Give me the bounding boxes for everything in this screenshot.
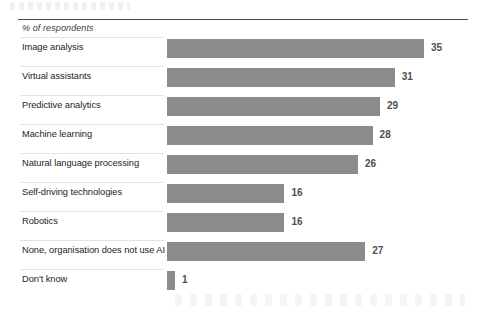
bar-value-label: 16 [291, 216, 302, 227]
bar-track: 27 [167, 242, 481, 261]
category-label: Don't know [22, 273, 67, 286]
row-separator [20, 182, 164, 183]
category-label: Self-driving technologies [22, 186, 122, 199]
bar [167, 184, 284, 203]
bar-track: 16 [167, 184, 481, 203]
bar-row: Virtual assistants31 [0, 66, 481, 95]
bar-value-label: 35 [431, 42, 442, 53]
bar-value-label: 27 [372, 245, 383, 256]
bar [167, 68, 395, 87]
category-label: None, organisation does not use AI [22, 244, 165, 257]
bar-track: 16 [167, 213, 481, 232]
bar-row: Robotics16 [0, 211, 481, 240]
bar [167, 271, 175, 290]
bar [167, 213, 284, 232]
row-separator [20, 211, 164, 212]
category-label: Robotics [22, 215, 58, 228]
bar-rows: Image analysis35Virtual assistants31Pred… [0, 37, 481, 298]
scan-artifact-bottom [175, 294, 465, 306]
bar-track: 35 [167, 39, 481, 58]
bar-row: Self-driving technologies16 [0, 182, 481, 211]
bar-row: Machine learning28 [0, 124, 481, 153]
bar-value-label: 1 [182, 274, 188, 285]
category-label: Image analysis [22, 41, 83, 54]
category-label: Machine learning [22, 128, 92, 141]
row-separator [20, 269, 164, 270]
bar-row: Image analysis35 [0, 37, 481, 66]
bar-row: Natural language processing26 [0, 153, 481, 182]
bar-value-label: 29 [387, 100, 398, 111]
row-separator [20, 240, 164, 241]
bar-track: 26 [167, 155, 481, 174]
bar-value-label: 26 [365, 158, 376, 169]
category-label: Virtual assistants [22, 70, 91, 83]
bar-track: 28 [167, 126, 481, 145]
chart-top-rule [18, 19, 468, 20]
bar-value-label: 31 [402, 71, 413, 82]
row-separator [20, 124, 164, 125]
bar-track: 31 [167, 68, 481, 87]
bar-chart: % of respondents Image analysis35Virtual… [0, 0, 481, 314]
bar [167, 39, 424, 58]
row-separator [20, 95, 164, 96]
bar-row: Predictive analytics29 [0, 95, 481, 124]
bar [167, 242, 365, 261]
axis-note: % of respondents [22, 23, 94, 33]
bar [167, 155, 358, 174]
bar [167, 97, 380, 116]
row-separator [20, 66, 164, 67]
bar-track: 29 [167, 97, 481, 116]
category-label: Predictive analytics [22, 99, 101, 112]
category-label: Natural language processing [22, 157, 139, 170]
bar [167, 126, 373, 145]
row-separator [20, 153, 164, 154]
bar-value-label: 16 [291, 187, 302, 198]
row-separator [20, 37, 164, 38]
bar-track: 1 [167, 271, 481, 290]
bar-value-label: 28 [380, 129, 391, 140]
bar-row: None, organisation does not use AI27 [0, 240, 481, 269]
